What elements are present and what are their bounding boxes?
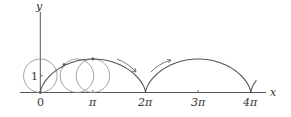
x-tick-label-0: 0 xyxy=(37,97,44,108)
trace-point xyxy=(63,63,66,66)
circle-top xyxy=(76,59,110,93)
cycloid-arch-1 xyxy=(40,59,145,93)
trace-point-origin xyxy=(39,91,42,94)
cycloid-diagram: y x 1 0 π 2π 3π 4π xyxy=(0,0,291,117)
cycloid-arch-3-partial xyxy=(251,80,257,92)
trace-point-top xyxy=(92,58,95,61)
y-tick-label-1: 1 xyxy=(31,71,38,82)
x-tick-label-3pi: 3π xyxy=(191,97,205,108)
x-tick-label-pi: π xyxy=(89,97,96,108)
x-axis-label: x xyxy=(270,87,276,98)
arrow-down-right-icon xyxy=(117,59,136,72)
y-axis-label: y xyxy=(36,1,42,12)
x-tick-label-4pi: 4π xyxy=(243,97,257,108)
x-tick-label-2pi: 2π xyxy=(138,97,152,108)
